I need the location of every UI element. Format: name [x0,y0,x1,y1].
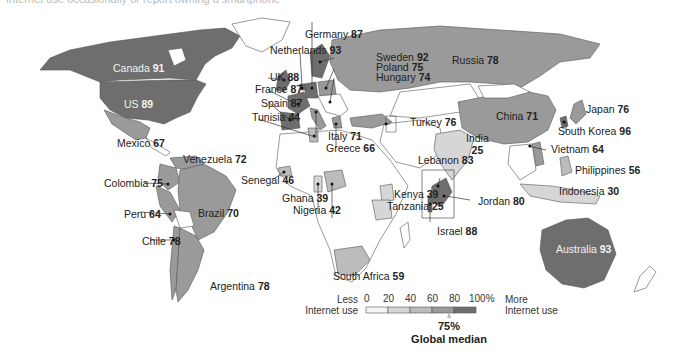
label-italy: Italy 71 [328,130,362,142]
label-venezuela: Venezuela 72 [183,153,247,165]
label-chile: Chile 78 [142,235,181,247]
label-senegal: Senegal 46 [241,174,294,186]
label-kenya: Kenya 39 [394,188,438,200]
label-spain: Spain 87 [261,97,302,109]
label-france: France 87 [255,83,302,95]
label-netherlands: Netherlands 93 [270,44,341,56]
legend-tick-100: 100% [469,293,495,304]
label-israel: Israel 88 [437,225,477,237]
legend-less-sublabel: Internet use [296,305,358,316]
label-japan: Japan 76 [586,103,629,115]
label-brazil: Brazil 70 [198,207,239,219]
country-europe-other [318,94,348,116]
label-germany: Germany 87 [305,28,363,40]
label-ghana: Ghana 39 [282,192,328,204]
legend-scale-bar [366,307,476,318]
legend-tick-20: 20 [383,293,394,304]
legend-tick-60: 60 [427,293,438,304]
legend-tick-40: 40 [405,293,416,304]
legend-tick-0: 0 [364,293,370,304]
label-china: China 71 [496,110,538,122]
label-hungary: Hungary 74 [376,71,430,83]
label-us: US 89 [124,98,153,110]
country-japan [570,100,586,124]
label-uk: UK 88 [270,71,299,83]
country-brazil [178,164,236,240]
country-italy [310,108,326,130]
label-australia: Australia 93 [556,243,611,255]
country-new-zealand [634,266,656,292]
label-tanzania: Tanzania 25 [387,200,444,212]
label-philippines: Philippines 56 [575,164,640,176]
label-canada: Canada 91 [113,62,164,74]
label-south-africa: South Africa 59 [333,270,404,282]
label-india: India25 [466,132,489,156]
legend-more-label: MoreInternet use [505,294,558,316]
country-philippines [560,156,572,176]
label-south-korea: South Korea 96 [558,125,631,137]
label-mexico: Mexico 67 [117,137,165,149]
label-nigeria: Nigeria 42 [293,204,341,216]
label-turkey: Turkey 76 [410,116,456,128]
global-median: 75%Global median [399,320,499,346]
legend-less-label: Less [320,294,358,305]
country-greece [332,116,342,128]
label-peru: Peru 64 [124,208,161,220]
label-jordan: Jordan 80 [478,195,525,207]
legend-tick-80: 80 [449,293,460,304]
label-argentina: Argentina 78 [210,280,270,292]
label-russia: Russia 78 [452,54,499,66]
label-vietnam: Vietnam 64 [551,143,604,155]
label-colombia: Colombia 75 [104,177,163,189]
label-greece: Greece 66 [326,142,375,154]
label-tunisia: Tunisia 44 [252,111,300,123]
label-indonesia: Indonesia 30 [559,185,619,197]
